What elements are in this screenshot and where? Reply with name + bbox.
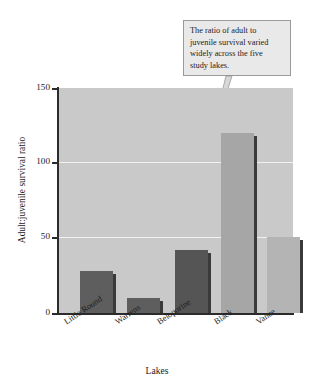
y-tick-label-100: 100	[4, 156, 50, 166]
bar-edge	[208, 253, 211, 313]
y-axis-title: Adult:juvenile survival ratio	[17, 110, 27, 270]
gridline-50	[58, 237, 293, 238]
y-axis-line	[57, 87, 59, 314]
y-tick-100	[52, 162, 57, 164]
annotation-callout: The ratio of adult to juvenile survival …	[183, 20, 291, 76]
annotation-line-3: widely across the five	[190, 48, 285, 60]
bar-body	[267, 237, 300, 313]
y-tick-0	[52, 313, 57, 315]
plot-area	[58, 88, 293, 313]
y-tick-150	[52, 88, 57, 90]
y-tick-50	[52, 237, 57, 239]
bar-edge	[254, 136, 257, 313]
annotation-line-1: The ratio of adult to	[190, 25, 285, 37]
bar-edge	[113, 274, 116, 313]
chart-figure: The ratio of adult to juvenile survival …	[0, 0, 314, 384]
y-tick-label-0: 0	[4, 307, 50, 317]
y-tick-label-150: 150	[4, 82, 50, 92]
bar-edge	[160, 301, 163, 313]
bar-edge	[300, 240, 303, 313]
x-axis-title: Lakes	[0, 365, 314, 376]
annotation-line-2: juvenile survival varied	[190, 37, 285, 49]
gridline-100	[58, 162, 293, 163]
bar-vance	[267, 237, 303, 313]
bar-black	[221, 133, 257, 313]
bar-body	[221, 133, 254, 313]
y-tick-label-50: 50	[4, 231, 50, 241]
